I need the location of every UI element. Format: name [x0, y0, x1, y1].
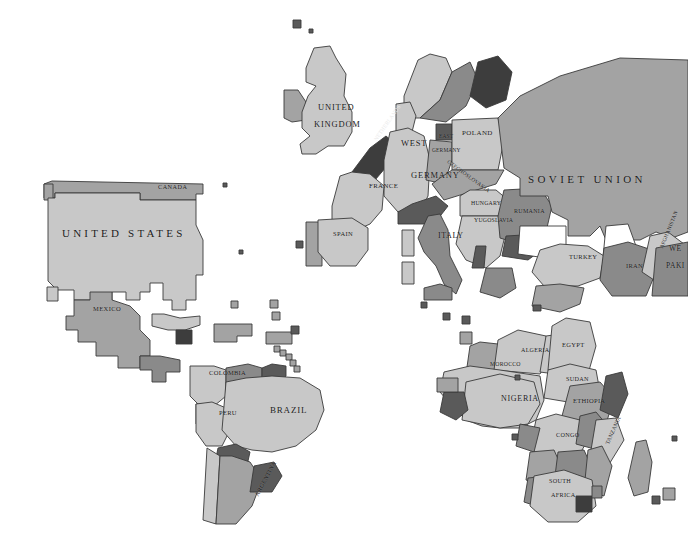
country-region-puertorico[interactable] [266, 332, 292, 344]
country-region-sardinia[interactable] [402, 230, 414, 256]
country-region-poland[interactable]: POLAND [452, 118, 504, 170]
country-region-mexico[interactable]: MEXICO [66, 292, 150, 368]
country-region-azores-dot[interactable] [296, 241, 303, 248]
country-region-reunion[interactable] [652, 496, 660, 504]
country-region-turkey[interactable]: TURKEY [532, 244, 604, 286]
country-region-senegal-strip[interactable] [437, 378, 458, 392]
country-region-cape-verde[interactable] [462, 316, 470, 324]
country-region-malta-dot[interactable] [443, 313, 450, 320]
country-region-italy[interactable]: ITALY [418, 214, 462, 294]
country-region-lesser-antilles-4[interactable] [280, 350, 286, 356]
country-region-lesser-antilles-1[interactable] [270, 300, 278, 308]
country-region-paraguay-uruguay[interactable] [250, 462, 282, 492]
country-region-madagascar[interactable] [628, 440, 652, 496]
country-region-greece[interactable] [480, 268, 516, 298]
country-region-central-america[interactable] [140, 356, 180, 382]
country-region-comoros-dot[interactable] [672, 436, 677, 441]
country-region-haiti-dr[interactable] [214, 324, 252, 342]
country-region-nigeria[interactable]: NIGERIA [462, 374, 540, 428]
country-region-sao-tome[interactable] [512, 434, 518, 440]
country-region-spain[interactable]: SPAIN [318, 218, 368, 266]
country-region-corsica[interactable] [402, 262, 414, 284]
country-region-lesser-antilles-6[interactable] [290, 360, 296, 366]
country-region-swaziland[interactable] [592, 486, 602, 498]
country-region-somalia[interactable] [600, 372, 628, 418]
country-region-iceland-dot[interactable] [293, 20, 301, 28]
country-region-bioko-dot[interactable] [515, 375, 520, 380]
country-region-finland[interactable] [470, 56, 512, 108]
country-region-lesser-antilles-3[interactable] [274, 346, 280, 352]
map-canvas: CANADAUNITED STATESMEXICOCOLOMBIAPERUBRA… [0, 0, 688, 557]
country-region-cyprus-dot[interactable] [533, 305, 541, 311]
world-map: CANADAUNITED STATESMEXICOCOLOMBIAPERUBRA… [0, 0, 688, 557]
country-region-us-island-w[interactable] [47, 287, 58, 301]
country-region-united-kingdom[interactable]: UNITED KINGDOM [300, 46, 352, 154]
country-region-lesser-antilles-7[interactable] [294, 366, 300, 372]
country-region-bermuda-dot[interactable] [239, 250, 243, 254]
country-region-trinidad[interactable] [291, 326, 299, 334]
country-region-mauritius[interactable] [663, 488, 675, 500]
country-region-west-pakistan[interactable]: WEST PAKISTAN [652, 242, 688, 296]
country-region-united-states[interactable]: UNITED STATES [48, 193, 203, 310]
country-region-bahrain-dot[interactable] [421, 302, 427, 308]
country-region-brazil[interactable]: BRAZIL [222, 376, 324, 452]
country-region-lesser-antilles-2[interactable] [272, 312, 280, 320]
country-region-cuba[interactable] [152, 314, 200, 330]
country-region-lesser-antilles-5[interactable] [286, 354, 292, 360]
country-region-greenland-dot[interactable] [223, 183, 227, 187]
country-region-sicily[interactable] [424, 284, 452, 300]
country-region-west-berlin[interactable] [436, 124, 452, 140]
country-region-bahamas[interactable] [231, 301, 238, 308]
country-region-lesotho[interactable] [576, 496, 592, 512]
country-region-jamaica[interactable] [176, 330, 192, 344]
country-region-faroe-dot[interactable] [309, 29, 313, 33]
country-region-west-germany[interactable]: WEST GERMANY [384, 128, 430, 212]
country-region-canary-islands[interactable] [460, 332, 472, 344]
